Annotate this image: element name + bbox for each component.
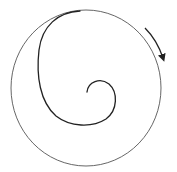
outer-circle — [11, 10, 161, 166]
spiral-diagram — [0, 0, 177, 172]
spiral-curve — [38, 11, 115, 125]
diagram-canvas — [0, 0, 177, 172]
